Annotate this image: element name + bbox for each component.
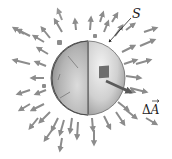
area-label: ΔA [142,103,160,117]
gaussian-surface-diagram: S ΔA [0,0,172,159]
gaussian-sphere [51,41,125,115]
surface-label: S [132,6,141,21]
area-patch [99,65,109,78]
